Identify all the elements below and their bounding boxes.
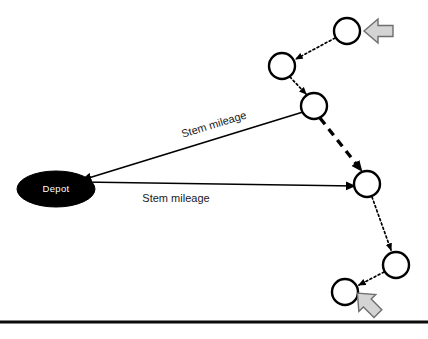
node-6 (332, 279, 358, 305)
node-3 (301, 93, 327, 119)
stem-mileage-upper-label: Stem mileage (180, 109, 248, 140)
node-4 (354, 171, 380, 197)
link-node3-depot (82, 112, 303, 180)
node-5 (383, 252, 409, 278)
node-2 (269, 53, 295, 79)
link-node2-node3 (290, 77, 306, 94)
diagram-canvas: Depot Stem mileage Stem mileage (0, 0, 428, 339)
node-1 (334, 18, 360, 44)
node-layer (269, 18, 409, 305)
stem-mileage-diagram: Depot Stem mileage Stem mileage (0, 0, 428, 339)
depot-node: Depot (17, 171, 95, 207)
inbound-block-arrow (364, 19, 393, 43)
link-layer (82, 38, 391, 285)
depot-label: Depot (43, 183, 70, 194)
link-node1-node2 (296, 38, 335, 59)
link-depot-node4 (82, 182, 355, 186)
link-node4-node5 (372, 197, 391, 250)
link-node5-node6 (359, 272, 384, 285)
stem-mileage-lower-label: Stem mileage (142, 192, 209, 204)
link-node3-node4 (320, 118, 361, 170)
